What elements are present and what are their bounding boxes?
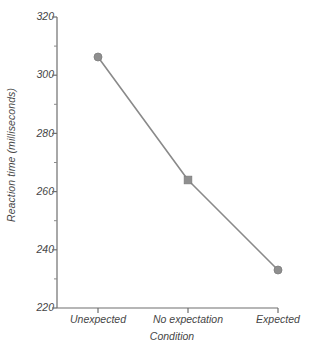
- data-point-unexpected: [94, 53, 102, 61]
- data-point-expected: [274, 266, 282, 274]
- data-line-reaction-time: [98, 57, 278, 270]
- chart-figure: Reaction time (milliseconds) 320 300 280…: [0, 0, 312, 354]
- x-ticks: [98, 308, 278, 313]
- plot-area: [0, 0, 312, 354]
- data-point-no-expectation: [184, 176, 192, 184]
